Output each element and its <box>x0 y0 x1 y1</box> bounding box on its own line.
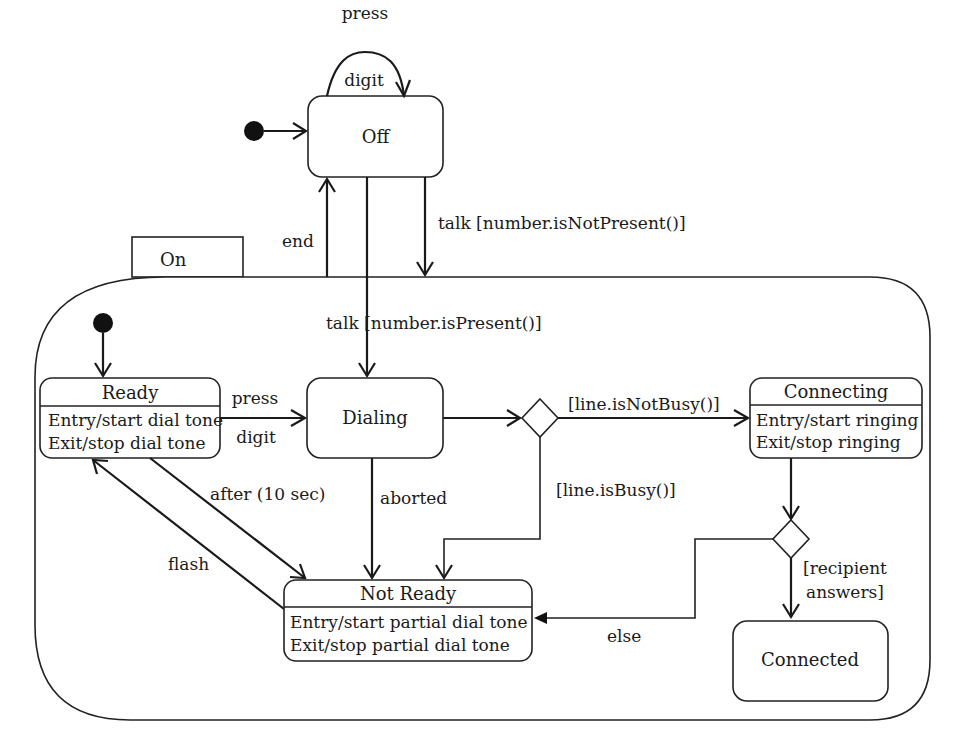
state-not-ready-entry: Entry/start partial dial tone <box>290 612 527 632</box>
inner-initial-pseudostate <box>93 313 113 333</box>
off-self-loop-label-bottom: digit <box>344 70 384 90</box>
ready-to-dialing-label-bottom: digit <box>236 427 276 447</box>
else-transition-label: else <box>607 626 641 646</box>
talk-not-present-transition-label: talk [number.isNotPresent()] <box>438 213 686 233</box>
state-dialing-label: Dialing <box>342 407 408 428</box>
end-transition-label: end <box>282 231 314 251</box>
state-not-ready-name: Not Ready <box>360 583 457 604</box>
state-ready-name: Ready <box>102 382 159 403</box>
on-state-label: On <box>160 249 187 270</box>
state-connecting-name: Connecting <box>784 381 889 402</box>
answers-transition-label-2: answers] <box>806 582 884 602</box>
initial-pseudostate-outer <box>244 121 264 141</box>
talk-present-transition-label: talk [number.isPresent()] <box>326 313 542 333</box>
state-ready-exit: Exit/stop dial tone <box>48 433 205 453</box>
state-connected-label: Connected <box>761 649 859 670</box>
on-state-tab <box>132 237 243 277</box>
aborted-transition-label: aborted <box>380 488 447 508</box>
state-diagram: On Off press digit end talk [number.isPr… <box>0 0 960 750</box>
ready-to-dialing-label-top: press <box>232 388 279 408</box>
not-busy-transition-label: [line.isNotBusy()] <box>568 394 720 414</box>
state-connecting-exit: Exit/stop ringing <box>756 432 901 452</box>
timeout-transition-label: after (10 sec) <box>210 484 325 504</box>
state-connecting-entry: Entry/start ringing <box>756 410 918 430</box>
flash-transition-label: flash <box>168 554 209 574</box>
off-self-loop-label-top: press <box>342 3 389 23</box>
state-off-label: Off <box>362 126 391 147</box>
answers-transition-label-1: [recipient <box>803 558 887 578</box>
state-not-ready-exit: Exit/stop partial dial tone <box>290 635 510 655</box>
state-ready-entry: Entry/start dial tone <box>48 410 223 430</box>
busy-transition-label: [line.isBusy()] <box>556 480 676 500</box>
